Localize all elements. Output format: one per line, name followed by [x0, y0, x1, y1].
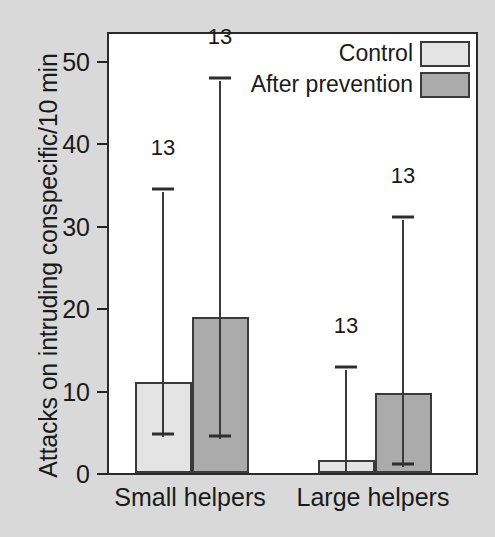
- legend: Control After prevention: [251, 40, 470, 98]
- legend-swatch-after-prevention: [420, 72, 470, 98]
- sample-size-small-helpers-control: 13: [151, 135, 175, 161]
- y-tick-label-30: 30: [44, 213, 90, 242]
- bar-chart-figure: Attacks on intruding conspecific/10 min …: [0, 0, 495, 537]
- sample-size-large-helpers-after-prevention: 13: [391, 163, 415, 189]
- x-tick-label-small-helpers: Small helpers: [114, 483, 265, 512]
- error-bar-cap-lower-large-helpers-after-prevention: [392, 463, 414, 466]
- y-tick-label-50: 50: [44, 48, 90, 77]
- error-bar-cap-lower-small-helpers-after-prevention: [209, 435, 231, 438]
- y-axis-tick-labels: 50 40 30 20 10 0: [44, 0, 90, 537]
- error-bar-cap-upper-large-helpers-after-prevention: [392, 216, 414, 219]
- error-bar-cap-upper-small-helpers-control: [152, 188, 174, 191]
- legend-entry-after-prevention: After prevention: [251, 71, 470, 98]
- y-tick-label-20: 20: [44, 295, 90, 324]
- legend-swatch-control: [420, 41, 470, 67]
- sample-size-small-helpers-after-prevention: 13: [208, 24, 232, 50]
- error-bar-line-small-helpers-after-prevention: [219, 81, 221, 439]
- y-tick-label-40: 40: [44, 130, 90, 159]
- legend-label-after-prevention: After prevention: [251, 71, 413, 98]
- error-bar-line-large-helpers-control: [345, 370, 347, 473]
- plot-inner: Control After prevention 13 13: [109, 34, 476, 473]
- legend-label-control: Control: [339, 40, 413, 67]
- sample-size-large-helpers-control: 13: [334, 313, 358, 339]
- error-bar-cap-upper-small-helpers-after-prevention: [209, 77, 231, 80]
- error-bar-cap-upper-large-helpers-control: [335, 366, 357, 369]
- legend-entry-control: Control: [251, 40, 470, 67]
- error-bar-line-large-helpers-after-prevention: [402, 220, 404, 467]
- x-tick-label-large-helpers: Large helpers: [297, 483, 450, 512]
- error-bar-line-small-helpers-control: [162, 192, 164, 437]
- error-bar-cap-lower-small-helpers-control: [152, 433, 174, 436]
- y-tick-label-0: 0: [44, 460, 90, 489]
- y-tick-label-10: 10: [44, 378, 90, 407]
- plot-area: Control After prevention 13 13: [107, 32, 478, 475]
